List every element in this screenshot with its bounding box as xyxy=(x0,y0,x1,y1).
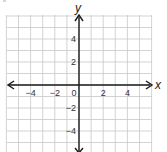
y-tick-label: 4 xyxy=(71,34,76,44)
x-tick-label: 2 xyxy=(101,88,106,98)
y-axis-label: y xyxy=(74,1,82,15)
y-tick-label: −4 xyxy=(66,126,76,136)
x-axis-label: x xyxy=(154,78,162,92)
y-tick-label: −2 xyxy=(66,103,76,113)
y-tick-label: 2 xyxy=(71,57,76,67)
x-tick-label: −4 xyxy=(25,88,35,98)
axes xyxy=(8,15,152,152)
x-tick-label: −2 xyxy=(50,88,60,98)
coordinate-plane: x y −4−2024 42−2−4 xyxy=(0,0,167,152)
x-tick-label: 0 xyxy=(71,88,76,98)
x-tick-label: 4 xyxy=(125,88,130,98)
